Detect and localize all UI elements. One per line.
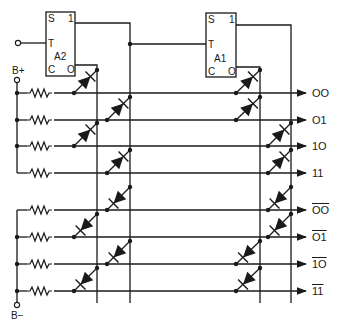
- output-label-01-bar: O1: [312, 232, 327, 243]
- output-label-11-bar: 11: [312, 286, 323, 297]
- a1-toggle-label: T: [208, 40, 214, 50]
- a2-name-label: A2: [54, 52, 66, 62]
- circuit-schematic: [0, 0, 343, 331]
- output-label-10: 1O: [312, 141, 327, 152]
- a2-one-label: 1: [68, 14, 74, 24]
- diode-leads: [74, 70, 291, 291]
- output-label-01: O1: [312, 115, 327, 126]
- a2-set-label: S: [48, 14, 55, 24]
- output-label-11: 11: [312, 168, 323, 179]
- b-minus-terminal: [14, 302, 19, 307]
- diodes: [76, 72, 290, 290]
- a2-zero-label: O: [67, 65, 75, 75]
- input-terminal: [15, 40, 20, 45]
- b-minus-label: B−: [11, 311, 24, 321]
- a1-set-label: S: [208, 15, 215, 25]
- b-plus-label: B+: [12, 66, 25, 76]
- decoder-circuit-diagram: S 1 T A2 C O S 1 T A1 C O B+ B− OO O1 1O…: [0, 0, 343, 331]
- a1-one-label: 1: [229, 15, 235, 25]
- output-label-00-bar: OO: [312, 205, 329, 216]
- output-label-10-bar: 1O: [312, 259, 327, 270]
- a2-clear-label: C: [48, 65, 55, 75]
- a1-name-label: A1: [214, 54, 226, 64]
- output-label-00: OO: [312, 88, 329, 99]
- output-lines: [54, 93, 306, 291]
- a1-zero-label: O: [228, 67, 236, 77]
- a1-clear-label: C: [208, 67, 215, 77]
- a2-toggle-label: T: [48, 39, 54, 49]
- b-plus-terminal: [14, 77, 19, 82]
- resistors: [27, 89, 52, 295]
